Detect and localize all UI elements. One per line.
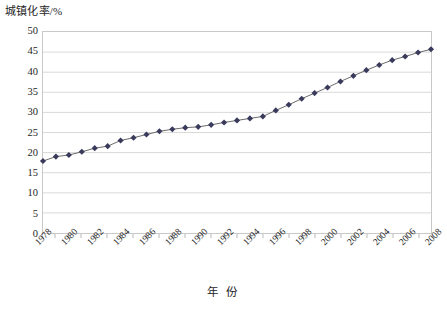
y-tick-label: 40 — [4, 66, 38, 77]
y-axis-title: 城镇化率/% — [5, 2, 62, 18]
y-tick-label: 50 — [4, 26, 38, 37]
data-point-marker — [92, 145, 98, 151]
data-point-marker — [208, 122, 214, 128]
data-point-marker — [402, 53, 408, 59]
plot-area — [42, 31, 432, 234]
y-axis-tick-labels: 05101520253035404550 — [0, 31, 38, 234]
data-point-marker — [118, 137, 124, 143]
data-point-marker — [286, 102, 292, 108]
x-axis-tick-labels: 1978198019821984198619881990199219941996… — [42, 234, 432, 280]
data-point-marker — [324, 84, 330, 90]
data-point-marker — [221, 119, 227, 125]
y-tick-label: 35 — [4, 87, 38, 98]
y-tick-label: 5 — [4, 208, 38, 219]
series-line — [43, 49, 431, 161]
data-point-marker — [415, 49, 421, 55]
data-point-marker — [143, 131, 149, 137]
data-point-marker — [195, 124, 201, 130]
data-point-marker — [273, 107, 279, 113]
x-axis-title: 年 份 — [0, 283, 447, 299]
data-point-marker — [156, 128, 162, 134]
data-point-marker — [79, 149, 85, 155]
y-tick-label: 45 — [4, 46, 38, 57]
data-point-marker — [66, 152, 72, 158]
data-point-marker — [350, 73, 356, 79]
data-point-marker — [182, 125, 188, 131]
y-tick-label: 25 — [4, 127, 38, 138]
y-tick-label: 10 — [4, 188, 38, 199]
data-point-marker — [105, 143, 111, 149]
data-series-urbanization-rate — [43, 32, 431, 233]
data-point-marker — [376, 62, 382, 68]
data-point-marker — [299, 96, 305, 102]
data-point-marker — [234, 117, 240, 123]
y-tick-label: 0 — [4, 229, 38, 240]
data-point-marker — [312, 90, 318, 96]
data-point-marker — [428, 46, 434, 52]
data-point-marker — [389, 57, 395, 63]
data-point-marker — [247, 115, 253, 121]
data-point-marker — [40, 158, 46, 164]
y-tick-label: 30 — [4, 107, 38, 118]
data-point-marker — [363, 67, 369, 73]
y-tick-label: 20 — [4, 148, 38, 159]
data-point-marker — [53, 154, 59, 160]
data-point-marker — [130, 135, 136, 141]
urbanization-rate-line-chart: 城镇化率/% 05101520253035404550 197819801982… — [0, 0, 447, 310]
data-point-marker — [169, 126, 175, 132]
y-tick-label: 15 — [4, 168, 38, 179]
data-point-marker — [337, 78, 343, 84]
data-point-marker — [260, 113, 266, 119]
